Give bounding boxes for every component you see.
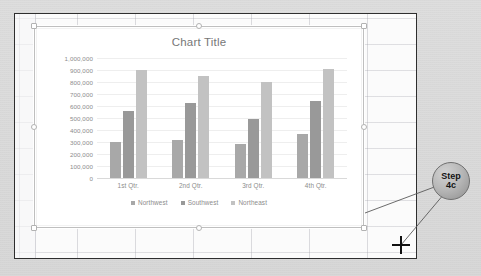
axis-baseline xyxy=(97,178,347,179)
legend-label: Southwest xyxy=(188,199,219,206)
y-axis-tick-label: 0 xyxy=(89,175,93,182)
legend-swatch-icon xyxy=(231,201,235,205)
y-axis-tick-label: 200,000 xyxy=(70,151,93,158)
bar[interactable] xyxy=(310,101,321,178)
bar[interactable] xyxy=(185,103,196,178)
bar-group xyxy=(160,58,223,178)
callout-line-2: 4c xyxy=(446,181,456,190)
bar[interactable] xyxy=(323,69,334,178)
resize-handle-middle-left[interactable] xyxy=(31,124,37,130)
resize-handle-top-left[interactable] xyxy=(31,23,37,29)
bar[interactable] xyxy=(297,134,308,178)
y-axis-tick-label: 400,000 xyxy=(70,127,93,134)
bar[interactable] xyxy=(248,119,259,178)
x-axis-category-label: 2nd Qtr. xyxy=(160,182,223,189)
chart-object[interactable]: Chart Title 1,000,000900,000800,000700,0… xyxy=(34,26,364,228)
chart-legend[interactable]: NorthwestSouthwestNortheast xyxy=(35,199,363,206)
y-axis-tick-label: 800,000 xyxy=(70,79,93,86)
resize-handle-top-right[interactable] xyxy=(361,23,367,29)
bar[interactable] xyxy=(172,140,183,178)
page-title[interactable]: Chart Title xyxy=(35,36,363,48)
step-4c-callout: Step 4c xyxy=(432,162,470,200)
legend-swatch-icon xyxy=(181,201,185,205)
legend-item[interactable]: Northwest xyxy=(131,199,168,206)
y-axis-tick-label: 100,000 xyxy=(70,163,93,170)
x-axis-category-label: 3rd Qtr. xyxy=(222,182,285,189)
resize-handle-bottom-left[interactable] xyxy=(31,225,37,231)
bar[interactable] xyxy=(110,142,121,178)
y-axis-tick-labels: 1,000,000900,000800,000700,000600,000500… xyxy=(41,58,93,178)
bar[interactable] xyxy=(136,70,147,178)
resize-handle-bottom-right[interactable] xyxy=(361,225,367,231)
y-axis-tick-label: 1,000,000 xyxy=(65,55,93,62)
crosshair-vertical xyxy=(400,236,402,254)
resize-handle-top-center[interactable] xyxy=(196,23,202,29)
bar-series-container xyxy=(97,58,347,178)
y-axis-tick-label: 500,000 xyxy=(70,115,93,122)
bar[interactable] xyxy=(123,111,134,178)
bar-group xyxy=(97,58,160,178)
x-axis-category-labels: 1st Qtr.2nd Qtr.3rd Qtr.4th Qtr. xyxy=(97,182,347,189)
y-axis-tick-label: 600,000 xyxy=(70,103,93,110)
x-axis-category-label: 1st Qtr. xyxy=(97,182,160,189)
bar[interactable] xyxy=(198,76,209,178)
legend-item[interactable]: Southwest xyxy=(181,199,219,206)
legend-label: Northwest xyxy=(138,199,168,206)
bar-group xyxy=(222,58,285,178)
x-axis-category-label: 4th Qtr. xyxy=(285,182,348,189)
y-axis-tick-label: 300,000 xyxy=(70,139,93,146)
legend-item[interactable]: Northeast xyxy=(231,199,267,206)
crosshair-icon xyxy=(392,236,410,254)
bar[interactable] xyxy=(235,144,246,178)
legend-swatch-icon xyxy=(131,201,135,205)
bar-group xyxy=(285,58,348,178)
bar[interactable] xyxy=(261,82,272,178)
resize-handle-bottom-center[interactable] xyxy=(196,225,202,231)
plot-area[interactable] xyxy=(97,58,347,178)
legend-label: Northeast xyxy=(238,199,267,206)
y-axis-tick-label: 700,000 xyxy=(70,91,93,98)
resize-handle-middle-right[interactable] xyxy=(361,124,367,130)
spreadsheet-row-gutter xyxy=(15,14,36,258)
y-axis-tick-label: 900,000 xyxy=(70,67,93,74)
